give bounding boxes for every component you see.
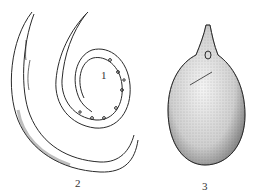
nematode-illustration: 1 2 3	[0, 0, 260, 196]
worm-figure-1	[56, 12, 130, 128]
cyst-figure-3	[168, 25, 245, 165]
worm-figure-2	[11, 12, 138, 172]
label-figure-1: 1	[101, 70, 107, 81]
label-figure-2: 2	[75, 178, 81, 189]
drawing	[0, 0, 260, 196]
label-figure-3: 3	[202, 181, 208, 192]
